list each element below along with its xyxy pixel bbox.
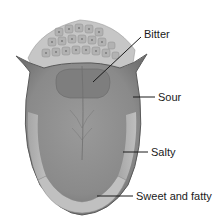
bitter-label: Bitter: [144, 28, 170, 40]
salty-label: Salty: [151, 146, 175, 158]
sour-label: Sour: [158, 91, 181, 103]
tongue-diagram: Bitter Sour Salty Sweet and fatty: [0, 0, 221, 218]
sweet-fatty-label: Sweet and fatty: [136, 190, 212, 202]
tongue-illustration: [0, 0, 221, 218]
